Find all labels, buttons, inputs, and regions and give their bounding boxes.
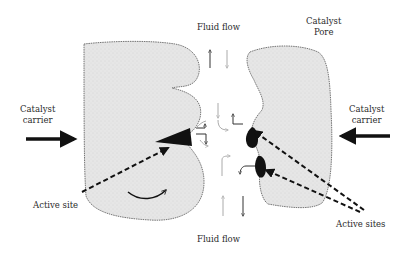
left-carrier-line2: carrier (20, 115, 55, 126)
catalyst-pore-diagram (0, 0, 412, 256)
fluid-flow-bottom-label: Fluid flow (197, 234, 240, 245)
left-catalyst-carrier-label: Catalyst carrier (20, 104, 55, 126)
active-sites-label: Active sites (336, 219, 385, 230)
right-catalyst-blob (247, 46, 332, 208)
right-catalyst-carrier-label: Catalyst carrier (349, 104, 384, 126)
catalyst-pore-label: Catalyst Pore (306, 16, 341, 38)
left-carrier-line1: Catalyst (20, 104, 55, 115)
active-site-label: Active site (33, 200, 78, 211)
right-carrier-line1: Catalyst (349, 104, 384, 115)
right-carrier-line2: carrier (349, 115, 384, 126)
catalyst-pore-line2: Pore (306, 27, 341, 38)
fluid-flow-top-label: Fluid flow (197, 22, 240, 33)
catalyst-pore-line1: Catalyst (306, 16, 341, 27)
